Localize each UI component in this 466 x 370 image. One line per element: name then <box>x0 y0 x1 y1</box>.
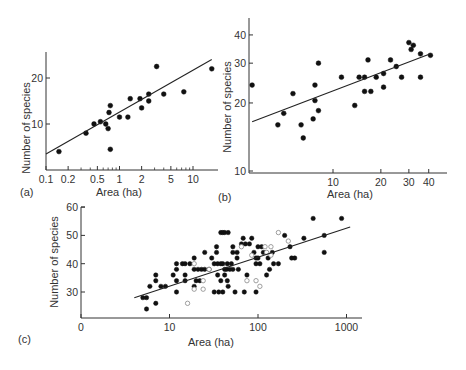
data-point <box>339 216 343 220</box>
x-tick-label: 40 <box>423 176 435 188</box>
data-point <box>106 126 111 131</box>
open-data-point <box>263 245 267 249</box>
data-point <box>399 75 404 80</box>
data-point <box>212 290 216 294</box>
data-point <box>107 110 112 115</box>
data-point <box>139 106 144 111</box>
data-point <box>231 250 235 254</box>
data-point <box>247 242 251 246</box>
x-tick-label: 0.1 <box>39 173 54 185</box>
data-point <box>250 236 254 240</box>
data-point <box>214 245 218 249</box>
data-point <box>144 295 148 299</box>
data-point <box>183 273 187 277</box>
data-point <box>293 256 297 260</box>
y-axis-label-c: Number of species <box>48 216 60 308</box>
y-tick-label: 20 <box>31 72 43 84</box>
data-point <box>215 273 219 277</box>
y-tick-label: 40 <box>66 258 78 270</box>
data-point <box>231 245 235 249</box>
data-point <box>254 290 258 294</box>
data-point <box>226 230 230 234</box>
open-data-point <box>201 278 205 282</box>
data-point <box>339 75 344 80</box>
data-point <box>57 149 62 154</box>
y-tick-label: 40 <box>234 29 246 41</box>
data-point <box>302 236 306 240</box>
x-tick-label: 0 <box>78 321 84 333</box>
panel-b: 1020304010203040 <box>234 18 447 188</box>
open-data-point <box>245 278 249 282</box>
data-point <box>221 262 225 266</box>
data-point <box>245 273 249 277</box>
data-point <box>108 103 113 108</box>
data-point <box>357 75 362 80</box>
x-axis-label-a: Area (ha) <box>96 186 142 198</box>
data-point <box>235 250 239 254</box>
data-point <box>267 267 271 271</box>
open-data-point <box>254 278 258 282</box>
data-point <box>428 53 433 58</box>
y-tick-label: 30 <box>234 57 246 69</box>
data-point <box>291 91 296 96</box>
data-point <box>281 111 286 116</box>
x-tick-label: 0.2 <box>61 173 76 185</box>
data-point <box>210 256 214 260</box>
open-data-point <box>192 287 196 291</box>
y-axis-label-a: Number of species <box>20 82 32 174</box>
data-point <box>146 99 151 104</box>
data-point <box>219 278 223 282</box>
regression-line <box>46 60 212 154</box>
data-point <box>381 85 386 90</box>
data-point <box>233 290 237 294</box>
data-point <box>125 115 130 120</box>
data-point <box>154 64 159 69</box>
data-point <box>322 250 326 254</box>
species-area-figure: 0.10.20.5125101020 1020304010203040 0101… <box>0 0 466 370</box>
panel-label-b: (b) <box>218 191 231 203</box>
data-point <box>117 115 122 120</box>
data-point <box>181 89 186 94</box>
data-point <box>183 262 187 266</box>
open-data-point <box>185 301 189 305</box>
data-point <box>221 290 225 294</box>
data-point <box>128 96 133 101</box>
data-point <box>299 122 304 127</box>
data-point <box>214 250 218 254</box>
data-point <box>311 216 315 220</box>
data-point <box>362 89 367 94</box>
x-tick-label: 10 <box>164 321 176 333</box>
data-point <box>217 290 221 294</box>
y-tick-label: 10 <box>31 118 43 130</box>
x-tick-label: 30 <box>403 176 415 188</box>
open-data-point <box>201 287 205 291</box>
y-tick-label: 30 <box>66 286 78 298</box>
open-data-point <box>192 262 196 266</box>
data-point <box>174 290 178 294</box>
panel-label-a: (a) <box>20 186 33 198</box>
y-tick-label: 20 <box>234 97 246 109</box>
data-point <box>108 147 113 152</box>
data-point <box>258 262 262 266</box>
data-point <box>161 92 166 97</box>
data-point <box>144 307 148 311</box>
data-point <box>154 301 158 305</box>
open-data-point <box>269 245 273 249</box>
data-point <box>406 40 411 45</box>
x-tick-label: 1 <box>117 173 123 185</box>
regression-line <box>252 54 430 122</box>
data-point <box>225 278 229 282</box>
data-point <box>271 262 275 266</box>
data-point <box>209 66 214 71</box>
data-point <box>235 256 239 260</box>
data-point <box>418 75 423 80</box>
data-point <box>222 273 226 277</box>
data-point <box>301 136 306 141</box>
data-point <box>418 51 423 56</box>
data-point <box>368 89 373 94</box>
open-data-point <box>276 230 280 234</box>
data-point <box>241 236 245 240</box>
open-data-point <box>207 267 211 271</box>
data-point <box>192 256 196 260</box>
data-point <box>242 290 246 294</box>
